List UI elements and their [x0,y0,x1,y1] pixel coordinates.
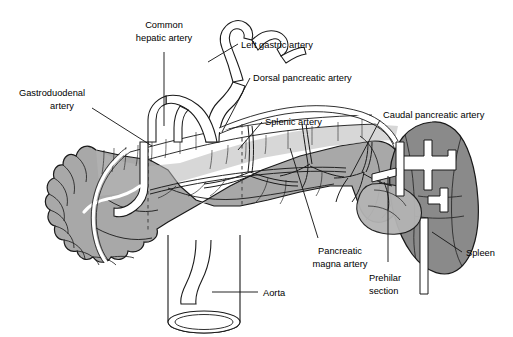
label-pancreatic-magna-artery-line1: Pancreatic [318,246,362,256]
pancreas-spleen-arterial-diagram: Common hepatic artery Gastroduodenal art… [0,0,513,337]
label-gastroduodenal-artery-line2: artery [50,101,74,111]
label-gastroduodenal-artery-line1: Gastroduodenal [19,88,85,98]
label-caudal-pancreatic-artery: Caudal pancreatic artery [383,110,485,120]
label-pancreatic-magna-artery-line2: magna artery [313,259,368,269]
label-dorsal-pancreatic-artery: Dorsal pancreatic artery [253,73,352,83]
label-splenic-artery: Splenic artery [265,117,322,127]
label-aorta: Aorta [263,288,286,298]
anatomical-figure: Common hepatic artery Gastroduodenal art… [0,0,513,337]
label-common-hepatic-artery-line2: hepatic artery [136,33,193,43]
label-prehilar-section-line2: section [369,286,398,296]
label-prehilar-section-line1: Prehilar [369,273,401,283]
label-spleen: Spleen [466,248,495,258]
label-left-gastric-artery: Left gastric artery [241,40,313,50]
label-common-hepatic-artery-line1: Common [145,20,183,30]
